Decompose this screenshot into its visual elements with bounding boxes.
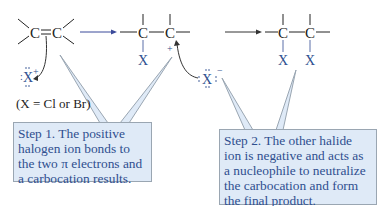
svg-text:X: X <box>138 53 148 68</box>
svg-text:X: X <box>23 70 33 85</box>
electrophile-x: : X + <box>20 66 39 87</box>
step2-pointers <box>222 70 296 130</box>
nucleophile-x: X − <box>198 65 223 88</box>
svg-text:+: + <box>167 43 173 54</box>
svg-text:C: C <box>305 25 315 41</box>
carbocation-intermediate: C X C + <box>120 14 190 68</box>
curved-arrow-icon <box>177 44 198 78</box>
carbon-atom: C <box>30 25 40 41</box>
step2-callout: Step 2. The other halide ion is negative… <box>219 129 377 205</box>
step1-pointers <box>60 55 172 123</box>
svg-text:C: C <box>165 25 175 41</box>
reaction-arrow-2 <box>225 30 262 35</box>
svg-text:C: C <box>278 25 288 41</box>
svg-text:−: − <box>217 65 223 76</box>
dihalide-product: C X C X <box>265 14 330 68</box>
svg-text:X: X <box>278 53 288 68</box>
reaction-arrow-1 <box>80 30 117 35</box>
svg-text:X: X <box>305 53 315 68</box>
svg-text:X: X <box>202 72 212 87</box>
reaction-diagram: C C : X + C <box>0 0 381 206</box>
halogen-note: (X = Cl or Br) <box>16 96 91 112</box>
svg-text:C: C <box>138 25 148 41</box>
svg-text:+: + <box>33 66 39 77</box>
carbon-atom: C <box>52 25 62 41</box>
step1-callout: Step 1. The positive halogen ion bonds t… <box>13 122 152 182</box>
